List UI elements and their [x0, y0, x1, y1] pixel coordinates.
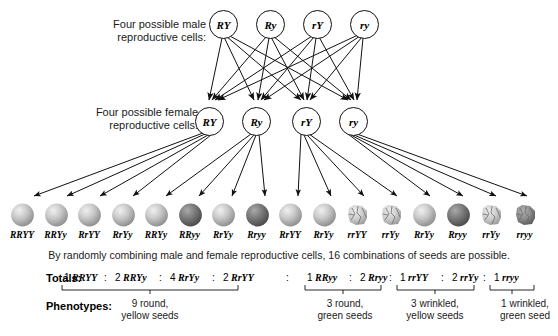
- female-gamete-4[interactable]: ry: [339, 107, 368, 136]
- female-label-line2: reproductive cells:: [109, 119, 198, 131]
- total-6-Rryy: 2 Rryy: [360, 272, 388, 283]
- total-count-9: 1: [494, 272, 500, 283]
- male-gamete-1-label: RY: [217, 19, 231, 31]
- female-gamete-3-label: rY: [301, 116, 312, 128]
- total-4-RrYY: 2 RrYY: [223, 272, 254, 283]
- male-gamete-2[interactable]: Ry: [256, 10, 285, 39]
- male-gamete-1[interactable]: RY: [209, 10, 238, 39]
- phenotype-2-line2: green seeds: [317, 310, 372, 321]
- totals-separator-5: :: [349, 272, 352, 283]
- total-5-RRyy: 1 RRyy: [307, 272, 337, 283]
- seed-2-round-yellow: [44, 203, 69, 227]
- seed-14-round-green: [446, 203, 471, 227]
- total-count-4: 2: [223, 272, 229, 283]
- total-1-RRYY: 1 RRYY: [64, 272, 97, 283]
- total-count-5: 1: [307, 272, 313, 283]
- total-count-1: 1: [64, 272, 70, 283]
- totals-separator-1: :: [104, 272, 107, 283]
- total-count-7: 1: [400, 272, 406, 283]
- phenotype-3-line2: yellow seeds: [406, 310, 463, 321]
- seed-8-round-green: [245, 203, 270, 227]
- male-gamete-3-label: rY: [312, 19, 323, 31]
- total-count-8: 2: [452, 272, 458, 283]
- total-2-RRYy: 2 RRYy: [115, 272, 147, 283]
- seed-16-wrinkled-green: [513, 203, 538, 227]
- phenotype-1-line2: yellow seeds: [121, 310, 178, 321]
- punnett-cross-diagram: Four possible male reproductive cells: F…: [0, 0, 558, 336]
- seed-genotype-16: rryy: [502, 230, 548, 240]
- male-gametes-label: Four possible male reproductive cells:: [88, 18, 206, 44]
- female-gamete-1[interactable]: RY: [195, 107, 224, 136]
- totals-separator-3: :: [212, 272, 215, 283]
- seed-13-round-yellow: [412, 203, 437, 227]
- seed-3-round-yellow: [77, 203, 102, 227]
- female-gametes-label: Four possible female reproductive cells:: [68, 106, 198, 132]
- female-gamete-4-label: ry: [349, 116, 358, 128]
- female-label-line1: Four possible female: [96, 106, 198, 118]
- female-gamete-3[interactable]: rY: [292, 107, 321, 136]
- seed-15-wrinkled-yellow: [479, 203, 504, 227]
- totals-row: 1 RRYY2 RRYy4 RrYy2 RrYY1 RRyy2 Rryy1 rr…: [60, 272, 558, 288]
- total-3-RrYy: 4 RrYy: [170, 272, 199, 283]
- seed-5-round-yellow: [144, 203, 169, 227]
- female-gamete-1-label: RY: [203, 116, 217, 128]
- total-8-rrYy: 2 rrYy: [452, 272, 478, 283]
- total-count-2: 2: [115, 272, 121, 283]
- seed-1-round-yellow: [10, 203, 35, 227]
- phenotype-4-line1: 1 wrinkled,: [501, 298, 549, 309]
- seed-12-wrinkled-yellow: [379, 203, 404, 227]
- totals-separator-7: :: [441, 272, 444, 283]
- seed-4-round-yellow: [111, 203, 136, 227]
- totals-separator-4: :: [286, 272, 289, 283]
- male-gamete-3[interactable]: rY: [303, 10, 332, 39]
- female-gamete-2[interactable]: Ry: [242, 107, 271, 136]
- phenotype-2-line1: 3 round,: [327, 298, 364, 309]
- total-count-3: 4: [170, 272, 176, 283]
- total-7-rrYY: 1 rrYY: [400, 272, 428, 283]
- phenotype-1-line1: 9 round,: [132, 298, 169, 309]
- totals-separator-8: :: [483, 272, 486, 283]
- phenotype-1: 9 round,yellow seeds: [90, 298, 210, 322]
- seed-7-round-yellow: [211, 203, 236, 227]
- phenotype-4-line2: green seed: [500, 310, 550, 321]
- seed-11-wrinkled-yellow: [345, 203, 370, 227]
- phenotype-3-line1: 3 wrinkled,: [411, 298, 459, 309]
- male-gamete-2-label: Ry: [264, 19, 276, 31]
- seed-9-round-yellow: [278, 203, 303, 227]
- figure-caption: By randomly combining male and female re…: [0, 249, 558, 261]
- male-label-line1: Four possible male: [113, 18, 206, 30]
- male-gamete-4[interactable]: ry: [350, 10, 379, 39]
- seed-10-round-yellow: [312, 203, 337, 227]
- male-gamete-4-label: ry: [360, 19, 369, 31]
- female-gamete-2-label: Ry: [250, 116, 262, 128]
- male-label-line2: reproductive cells:: [117, 31, 206, 43]
- seed-6-round-green: [178, 203, 203, 227]
- totals-separator-2: :: [159, 272, 162, 283]
- total-count-6: 2: [360, 272, 366, 283]
- phenotype-4: 1 wrinkled,green seed: [465, 298, 558, 322]
- total-9-rryy: 1 rryy: [494, 272, 519, 283]
- totals-separator-6: :: [389, 272, 392, 283]
